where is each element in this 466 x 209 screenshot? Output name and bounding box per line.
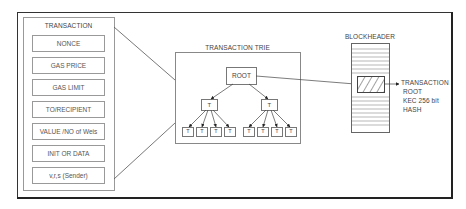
field-signature: v,r,s (Sender) — [32, 167, 105, 184]
trie-title: TRANSACTION TRIE — [175, 44, 300, 51]
field-to-recipient: TO/RECIPIENT — [32, 101, 105, 118]
field-gas-limit: GAS LIMIT — [32, 79, 105, 96]
leaf-label: T — [257, 128, 269, 134]
root-label: ROOT — [226, 72, 257, 79]
transaction-title: TRANSACTION — [23, 22, 114, 29]
branch-label-left: T — [201, 102, 218, 108]
annotation-line-1: TRANSACTION — [401, 79, 449, 86]
field-value: VALUE /NO of Weis — [32, 123, 105, 140]
leaf-label: T — [210, 128, 222, 134]
field-nonce: NONCE — [32, 35, 105, 52]
annotation-line-3: KEC 256 bit — [403, 97, 439, 104]
leaf-label: T — [271, 128, 283, 134]
field-gas-price: GAS PRICE — [32, 57, 105, 74]
annotation-line-4: HASH — [403, 106, 421, 113]
leaf-label: T — [182, 128, 194, 134]
blockheader-title: BLOCKHEADER — [343, 33, 397, 40]
branch-label-right: T — [261, 102, 278, 108]
leaf-label: T — [285, 128, 297, 134]
annotation-line-2: ROOT — [403, 88, 422, 95]
leaf-label: T — [196, 128, 208, 134]
transaction-root-field — [358, 77, 385, 93]
leaf-label: T — [243, 128, 255, 134]
leaf-label: T — [224, 128, 236, 134]
field-init-data: INIT OR DATA — [32, 145, 105, 162]
